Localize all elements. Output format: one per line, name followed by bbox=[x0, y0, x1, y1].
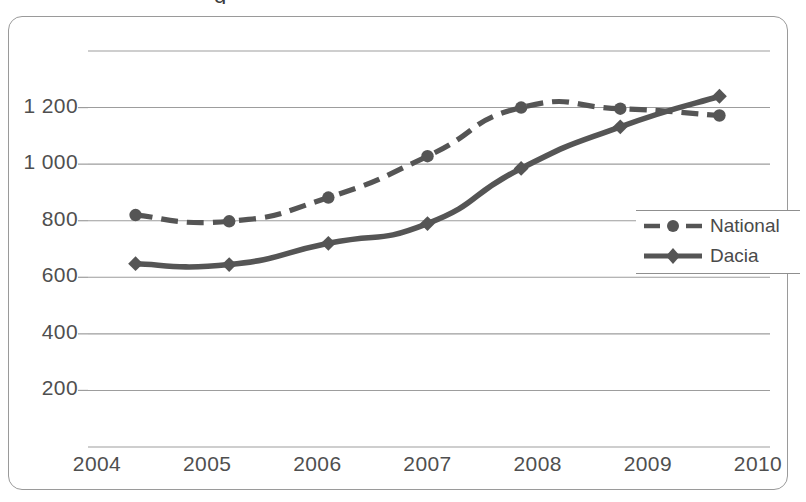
legend-key-solid-diamond bbox=[642, 246, 704, 266]
data-point-marker bbox=[613, 119, 628, 134]
data-point-marker bbox=[420, 216, 435, 231]
x-tick-label: 2006 bbox=[267, 452, 367, 476]
data-point-marker bbox=[223, 215, 235, 227]
x-tick-label: 2005 bbox=[157, 452, 257, 476]
data-point-marker bbox=[321, 236, 336, 251]
legend-item-national[interactable]: National bbox=[642, 213, 780, 239]
legend-key-dashed-circle bbox=[642, 216, 704, 236]
y-tick-label: 1 200 bbox=[0, 94, 78, 118]
data-point-marker bbox=[712, 89, 727, 104]
data-point-marker bbox=[129, 209, 141, 221]
data-point-marker bbox=[515, 101, 527, 113]
y-tick-label: 600 bbox=[0, 263, 78, 287]
data-point-marker bbox=[128, 256, 143, 271]
x-tick-label: 2009 bbox=[598, 452, 698, 476]
y-tick-label: 1 000 bbox=[0, 150, 78, 174]
chart-page: g 1 2001 000800600400200 200420052006200… bbox=[0, 0, 806, 502]
y-tick-label: 800 bbox=[0, 207, 78, 231]
legend-label-dacia: Dacia bbox=[710, 245, 759, 267]
legend-item-dacia[interactable]: Dacia bbox=[642, 243, 759, 269]
x-tick-label: 2004 bbox=[47, 452, 147, 476]
y-tick-label: 400 bbox=[0, 320, 78, 344]
x-tick-label: 2008 bbox=[488, 452, 588, 476]
series-line bbox=[136, 96, 720, 267]
data-point-marker bbox=[322, 191, 334, 203]
data-point-marker bbox=[421, 150, 433, 162]
chart-legend: National Dacia bbox=[636, 210, 800, 274]
y-tick-label: 200 bbox=[0, 376, 78, 400]
legend-label-national: National bbox=[710, 215, 780, 237]
data-point-marker bbox=[222, 257, 237, 272]
x-tick-label: 2007 bbox=[378, 452, 478, 476]
data-point-marker bbox=[614, 103, 626, 115]
data-point-marker bbox=[713, 109, 725, 121]
x-tick-label: 2010 bbox=[708, 452, 806, 476]
